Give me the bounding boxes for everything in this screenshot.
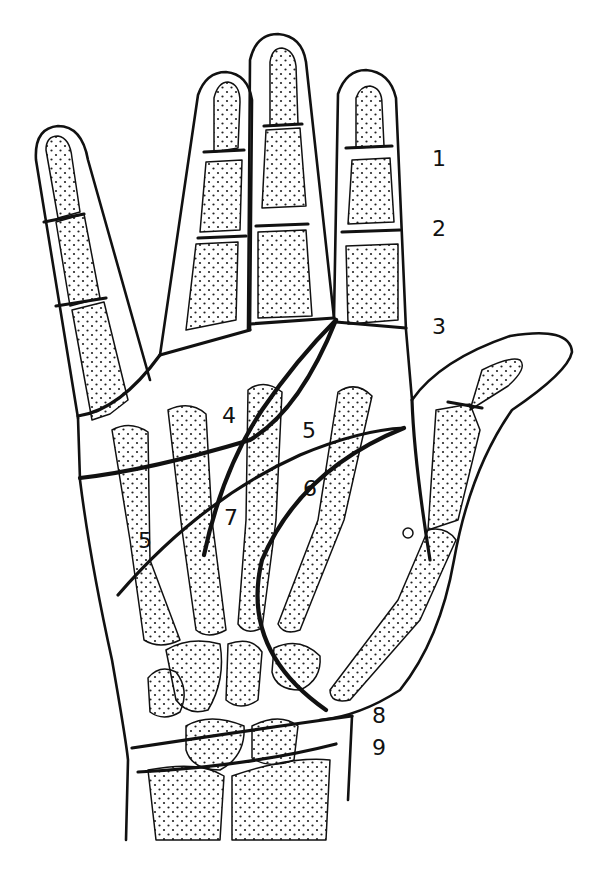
- label-1: 1: [432, 148, 446, 170]
- label-7: 7: [224, 507, 238, 529]
- hand-anatomy-figure: 1 2 3 4 5 6 7 5 8 9: [0, 0, 596, 882]
- pisiform-marker: [403, 528, 413, 538]
- label-9: 9: [372, 737, 386, 759]
- hand-drawing: [0, 0, 596, 882]
- label-5-lower: 5: [138, 530, 152, 552]
- label-3: 3: [432, 316, 446, 338]
- label-5-upper: 5: [302, 420, 316, 442]
- label-4: 4: [222, 405, 236, 427]
- label-8: 8: [372, 705, 386, 727]
- label-6: 6: [303, 478, 317, 500]
- label-2: 2: [432, 218, 446, 240]
